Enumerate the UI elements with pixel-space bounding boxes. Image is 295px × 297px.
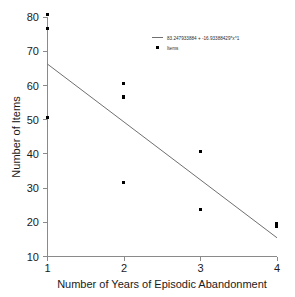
legend-square-swatch-icon	[156, 46, 159, 49]
data-points-group	[46, 13, 279, 228]
y-tick: 10	[27, 251, 48, 263]
x-tick-label: 2	[121, 262, 127, 274]
y-tick-label: 10	[27, 251, 39, 263]
x-tick-label: 4	[274, 262, 280, 274]
x-tick: 3	[197, 257, 203, 275]
data-point	[122, 181, 125, 184]
y-tick-label: 70	[27, 45, 39, 57]
regression-line	[48, 64, 278, 238]
y-tick-label: 40	[27, 148, 39, 160]
data-point	[199, 208, 202, 211]
y-tick-label: 60	[27, 80, 39, 92]
x-tick-label: 3	[197, 262, 203, 274]
data-point	[46, 13, 49, 16]
y-tick: 70	[27, 45, 48, 57]
legend-label-items: Items	[167, 46, 179, 51]
y-tick-label: 80	[27, 11, 39, 23]
y-axis-ticks: 10 20 30 40 50 60	[27, 11, 48, 262]
data-point	[122, 95, 125, 98]
y-tick: 60	[27, 80, 48, 92]
legend: 83.247933884 + -16.93388429*x^1 Items	[152, 36, 240, 51]
legend-entry-items: Items	[156, 46, 179, 51]
data-point	[199, 150, 202, 153]
y-tick: 20	[27, 216, 48, 228]
x-tick: 2	[121, 257, 127, 275]
y-tick: 50	[27, 114, 48, 126]
x-axis-title: Number of Years of Episodic Abandonment	[57, 278, 267, 290]
data-point	[275, 222, 278, 225]
y-axis-title: Number of Items	[10, 96, 22, 178]
y-tick: 30	[27, 182, 48, 194]
data-point	[122, 82, 125, 85]
x-tick-label: 1	[44, 262, 50, 274]
data-point	[275, 225, 278, 228]
y-tick: 40	[27, 148, 48, 160]
y-tick-label: 20	[27, 216, 39, 228]
legend-label-equation: 83.247933884 + -16.93388429*x^1	[167, 36, 240, 41]
axes-group	[48, 17, 278, 257]
x-tick: 1	[44, 257, 50, 275]
plot-canvas: 10 20 30 40 50 60	[0, 0, 295, 297]
scatter-plot-figure: 10 20 30 40 50 60	[0, 0, 295, 297]
x-axis-ticks: 1 2 3 4	[44, 257, 280, 275]
y-tick: 80	[27, 11, 48, 23]
data-point	[46, 116, 49, 119]
x-tick: 4	[274, 257, 280, 275]
data-point	[46, 27, 49, 30]
legend-entry-fit: 83.247933884 + -16.93388429*x^1	[152, 36, 240, 41]
y-tick-label: 50	[27, 114, 39, 126]
y-tick-label: 30	[27, 182, 39, 194]
